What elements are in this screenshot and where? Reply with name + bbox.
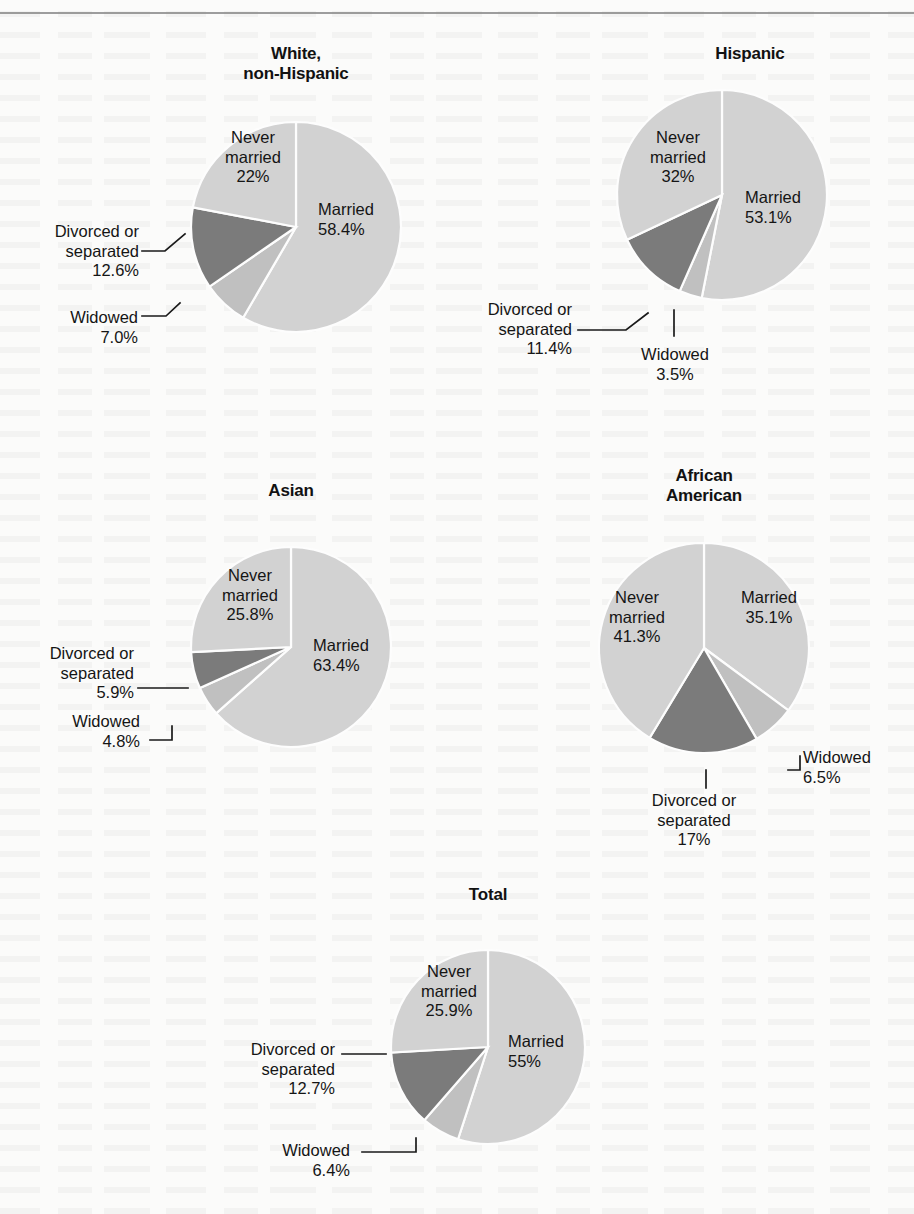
leader-lines-total [200, 820, 700, 1214]
leader-lines-asian [0, 440, 460, 840]
leader-lines-hispanic [440, 0, 914, 440]
leader-lines-white-non-hispanic [0, 0, 460, 440]
leader-lines-african-american [440, 440, 914, 840]
